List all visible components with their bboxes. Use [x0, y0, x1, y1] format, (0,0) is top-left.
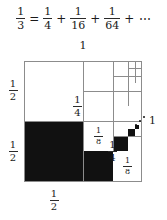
gridline-level-3-horizontal	[113, 76, 142, 77]
gridline-level-4-horizontal	[128, 68, 142, 69]
ellipsis-dot-2	[139, 120, 141, 122]
gridline-level-3-horizontal-b	[113, 136, 142, 137]
gridline-level-2-horizontal	[83, 91, 142, 92]
gridline-level-4-vertical	[135, 61, 136, 83]
denominator: 64	[104, 20, 120, 31]
shaded-quadrant-level-1	[25, 121, 83, 181]
denominator: 2	[9, 153, 17, 163]
ellipsis-dot-3	[143, 116, 145, 118]
left-label-half-upper: 1 2	[4, 75, 22, 105]
fraction-one-third: 1 3	[16, 6, 25, 31]
fraction-half-lower-left: 1 2	[9, 140, 18, 163]
fraction-one-sixteenth: 1 16	[70, 6, 86, 31]
corner-ellipsis-icon	[135, 116, 147, 128]
fraction-one-sixtyfourth: 1 64	[104, 6, 120, 31]
plus-sign-1: +	[56, 13, 66, 25]
denominator: 2	[9, 92, 17, 102]
plus-sign-2: +	[90, 13, 100, 25]
denominator: 3	[16, 20, 25, 31]
left-label-half-lower: 1 2	[4, 136, 22, 166]
shaded-quadrant-level-3	[113, 136, 128, 151]
series-equation: 1 3 = 1 4 + 1 16 + 1 64 + ⋯	[0, 6, 167, 31]
bottom-label-half: 1 2	[44, 186, 64, 214]
shaded-quadrant-level-4	[128, 129, 135, 136]
series-ellipsis: ⋯	[139, 13, 152, 25]
fraction-half-upper-left: 1 2	[9, 79, 18, 102]
numerator: 1	[43, 6, 52, 17]
fraction-one-fourth: 1 4	[43, 6, 52, 31]
top-side-length-label: 1	[24, 40, 142, 51]
equals-sign: =	[29, 13, 39, 25]
denominator: 2	[50, 202, 58, 212]
fraction-half-bottom: 1 2	[50, 189, 59, 212]
shaded-quadrant-level-2	[84, 151, 113, 181]
gridline-level-1-horizontal-left	[24, 121, 83, 122]
right-side-length-label: 1	[149, 115, 156, 126]
plus-sign-3: +	[124, 13, 134, 25]
denominator: 16	[70, 20, 86, 31]
numerator: 1	[108, 6, 117, 17]
numerator: 1	[9, 79, 17, 89]
numerator: 1	[50, 189, 58, 199]
numerator: 1	[74, 6, 83, 17]
numerator: 1	[16, 6, 25, 17]
denominator: 4	[43, 20, 52, 31]
ellipsis-dot-1	[135, 124, 137, 126]
numerator: 1	[9, 140, 17, 150]
unit-square-diagram: 1 4 1 4 1 8 1 8	[24, 61, 142, 182]
gridline-level-2-vertical	[113, 61, 114, 151]
